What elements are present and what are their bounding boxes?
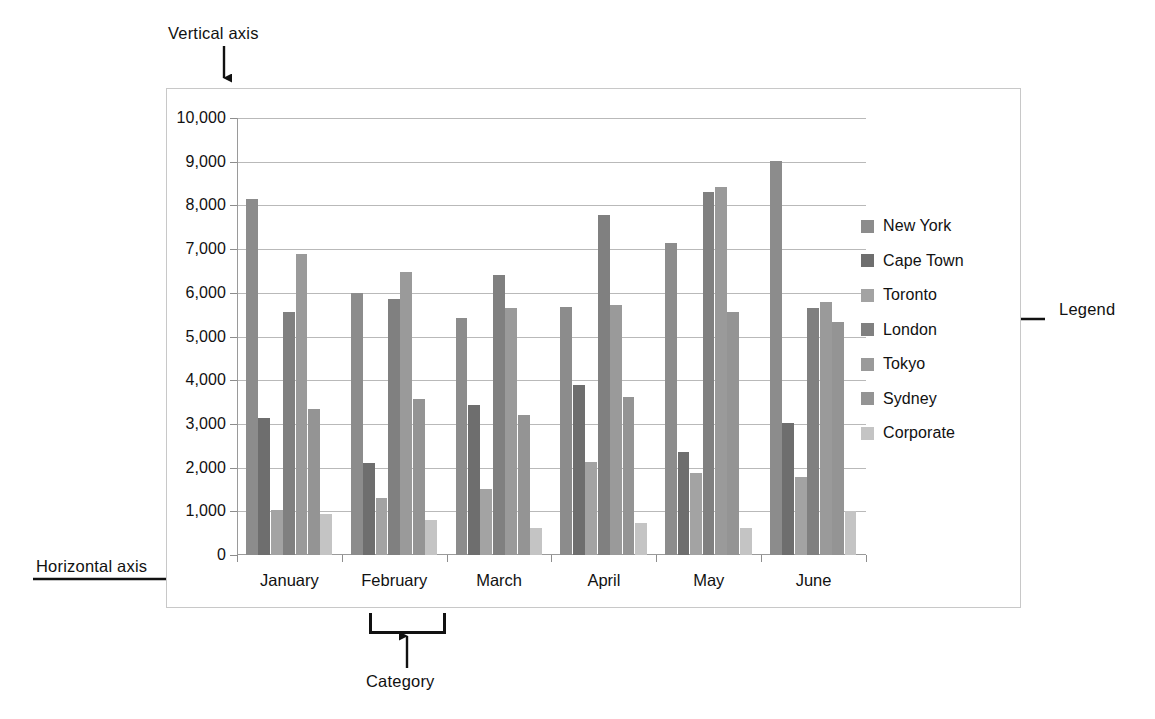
bar[interactable] [480, 489, 492, 555]
bar[interactable] [376, 498, 388, 555]
legend-item-label: Corporate [883, 424, 955, 442]
y-axis-tick-label: 1,000 [185, 502, 226, 520]
y-axis-tick [230, 249, 237, 250]
bar-group: April [552, 118, 657, 555]
x-axis-tick [342, 555, 343, 562]
x-axis-category-label: April [552, 571, 657, 590]
y-axis-tick-label: 0 [217, 546, 226, 564]
bar[interactable] [296, 254, 308, 555]
x-axis-category-label: June [761, 571, 866, 590]
y-axis-tick [230, 162, 237, 163]
bar-group: February [342, 118, 447, 555]
legend-swatch-icon [861, 289, 874, 302]
y-axis-tick-label: 10,000 [176, 109, 226, 127]
bar[interactable] [585, 462, 597, 555]
y-axis-tick [230, 380, 237, 381]
legend-item-sydney[interactable]: Sydney [861, 382, 1011, 417]
legend-swatch-icon [861, 220, 874, 233]
y-axis-tick-label: 6,000 [185, 284, 226, 302]
y-axis-tick [230, 205, 237, 206]
bar[interactable] [820, 302, 832, 555]
chart-legend: New YorkCape TownTorontoLondonTokyoSydne… [861, 209, 1011, 451]
bar[interactable] [845, 511, 857, 555]
bar[interactable] [665, 243, 677, 555]
legend-item-cape-town[interactable]: Cape Town [861, 244, 1011, 279]
legend-item-toronto[interactable]: Toronto [861, 278, 1011, 313]
legend-item-new-york[interactable]: New York [861, 209, 1011, 244]
x-axis-tick [761, 555, 762, 562]
bar[interactable] [703, 192, 715, 555]
bar-group: March [447, 118, 552, 555]
bar[interactable] [560, 307, 572, 555]
bar[interactable] [363, 463, 375, 555]
bar[interactable] [635, 523, 647, 555]
legend-item-london[interactable]: London [861, 313, 1011, 348]
y-axis-tick-label: 3,000 [185, 415, 226, 433]
legend-swatch-icon [861, 358, 874, 371]
y-axis-tick-label: 5,000 [185, 327, 226, 345]
x-axis-category-label: February [342, 571, 447, 590]
bar[interactable] [740, 528, 752, 555]
annotation-vertical-axis: Vertical axis [168, 24, 259, 43]
bar[interactable] [413, 399, 425, 555]
annotation-horizontal-axis: Horizontal axis [36, 557, 147, 576]
y-axis-tick [230, 337, 237, 338]
legend-item-label: New York [883, 217, 951, 235]
bar[interactable] [807, 308, 819, 555]
bar[interactable] [518, 415, 530, 555]
bar[interactable] [573, 385, 585, 555]
bar-group: January [237, 118, 342, 555]
y-axis-tick-label: 7,000 [185, 240, 226, 258]
bar[interactable] [715, 187, 727, 555]
bar[interactable] [351, 293, 363, 555]
legend-item-label: Tokyo [883, 355, 925, 373]
bar[interactable] [832, 322, 844, 555]
x-axis-tick [237, 555, 238, 562]
bar[interactable] [727, 312, 739, 555]
y-axis-tick [230, 424, 237, 425]
bar[interactable] [320, 514, 332, 556]
legend-swatch-icon [861, 427, 874, 440]
y-axis-tick [230, 555, 237, 556]
bar[interactable] [782, 423, 794, 555]
legend-item-label: Toronto [883, 286, 937, 304]
bar[interactable] [530, 528, 542, 555]
bar[interactable] [456, 318, 468, 555]
bar-group: May [656, 118, 761, 555]
legend-item-label: London [883, 321, 937, 339]
x-axis-tick [551, 555, 552, 562]
bar[interactable] [598, 215, 610, 555]
bar[interactable] [258, 418, 270, 555]
bar[interactable] [283, 312, 295, 555]
bar[interactable] [308, 409, 320, 555]
bar[interactable] [271, 510, 283, 555]
bar[interactable] [505, 308, 517, 555]
bar-group: June [761, 118, 866, 555]
bar[interactable] [468, 405, 480, 555]
category-bracket [369, 613, 446, 634]
annotation-category: Category [366, 672, 435, 691]
x-axis-tick [656, 555, 657, 562]
bar[interactable] [493, 275, 505, 555]
bar[interactable] [610, 305, 622, 555]
bar[interactable] [388, 299, 400, 555]
bar[interactable] [246, 199, 258, 555]
legend-swatch-icon [861, 254, 874, 267]
legend-item-corporate[interactable]: Corporate [861, 416, 1011, 451]
bar[interactable] [425, 520, 437, 555]
y-axis-tick [230, 468, 237, 469]
bar[interactable] [623, 397, 635, 555]
bar[interactable] [770, 161, 782, 555]
bar[interactable] [690, 473, 702, 555]
legend-swatch-icon [861, 323, 874, 336]
bar-series-container: JanuaryFebruaryMarchAprilMayJune [237, 118, 866, 555]
bar[interactable] [400, 272, 412, 555]
bar[interactable] [678, 452, 690, 555]
legend-item-label: Cape Town [883, 252, 964, 270]
bar[interactable] [795, 477, 807, 555]
chart-frame: 10,0009,0008,0007,0006,0005,0004,0003,00… [166, 88, 1021, 608]
plot-area: 10,0009,0008,0007,0006,0005,0004,0003,00… [237, 118, 866, 555]
legend-item-tokyo[interactable]: Tokyo [861, 347, 1011, 382]
legend-item-label: Sydney [883, 390, 937, 408]
y-axis-tick [230, 118, 237, 119]
